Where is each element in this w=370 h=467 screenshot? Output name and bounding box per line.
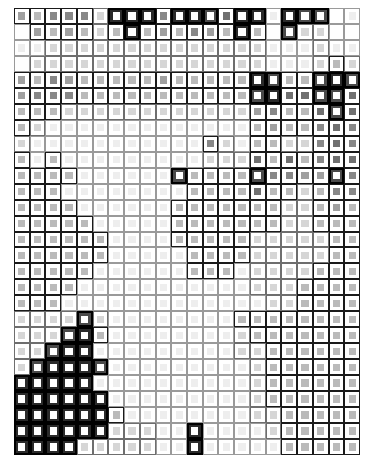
heatmap-cell [30, 56, 46, 72]
cell-swatch [349, 332, 356, 339]
heatmap-cell [234, 375, 250, 391]
cell-swatch [317, 60, 324, 67]
heatmap-cell [124, 327, 140, 343]
cell-swatch [18, 300, 25, 307]
cell-swatch [223, 76, 230, 83]
cell-plate [16, 26, 28, 38]
cell-swatch [50, 316, 57, 323]
cell-plate [268, 26, 280, 38]
cell-swatch [81, 300, 88, 307]
heatmap-cell [313, 263, 329, 279]
cell-swatch [144, 188, 151, 195]
heatmap-cell [156, 311, 172, 327]
heatmap-cell [297, 104, 313, 120]
cell-swatch [34, 188, 41, 195]
heatmap-cell [187, 104, 203, 120]
cell-swatch [144, 28, 151, 35]
cell-swatch [160, 12, 167, 19]
cell-swatch [18, 124, 25, 131]
heatmap-cell [297, 72, 313, 88]
cell-swatch [81, 379, 88, 386]
heatmap-cell [61, 40, 77, 56]
cell-swatch [223, 108, 230, 115]
cell-swatch [65, 44, 72, 51]
cell-swatch [191, 76, 198, 83]
heatmap-cell [250, 295, 266, 311]
cell-swatch [333, 108, 340, 115]
cell-swatch [254, 316, 261, 323]
cell-swatch [160, 204, 167, 211]
cell-swatch [286, 300, 293, 307]
heatmap-cell [61, 8, 77, 24]
heatmap-cell [140, 327, 156, 343]
heatmap-cell [14, 152, 30, 168]
cell-swatch [223, 44, 230, 51]
heatmap-cell [266, 391, 282, 407]
cell-swatch [254, 284, 261, 291]
heatmap-cell [187, 184, 203, 200]
heatmap-cell [77, 279, 93, 295]
cell-swatch [207, 204, 214, 211]
cell-swatch [144, 395, 151, 402]
cell-swatch [128, 108, 135, 115]
cell-swatch [238, 220, 245, 227]
heatmap-cell [203, 279, 219, 295]
heatmap-cell [187, 375, 203, 391]
heatmap-cell [187, 40, 203, 56]
heatmap-cell [61, 216, 77, 232]
cell-swatch [191, 220, 198, 227]
heatmap-cell [108, 72, 124, 88]
cell-swatch [333, 172, 340, 179]
cell-swatch [34, 427, 41, 434]
heatmap-cell [14, 327, 30, 343]
cell-swatch [144, 316, 151, 323]
cell-swatch [18, 108, 25, 115]
heatmap-cell [329, 184, 345, 200]
cell-swatch [333, 316, 340, 323]
heatmap-cell [297, 327, 313, 343]
cell-swatch [160, 220, 167, 227]
heatmap-cell [297, 88, 313, 104]
heatmap-cell [203, 216, 219, 232]
cell-swatch [238, 348, 245, 355]
cell-swatch [191, 108, 198, 115]
heatmap-cell [140, 263, 156, 279]
cell-swatch [18, 188, 25, 195]
heatmap-cell [218, 327, 234, 343]
cell-swatch [301, 395, 308, 402]
cell-swatch [301, 268, 308, 275]
heatmap-cell [234, 8, 250, 24]
heatmap-cell [329, 279, 345, 295]
heatmap-cell [218, 136, 234, 152]
cell-swatch [254, 300, 261, 307]
cell-swatch [270, 236, 277, 243]
cell-swatch [18, 44, 25, 51]
cell-swatch [128, 300, 135, 307]
cell-swatch [254, 252, 261, 259]
heatmap-cell [344, 391, 360, 407]
heatmap-cell [329, 200, 345, 216]
heatmap-cell [93, 120, 109, 136]
heatmap-cell [344, 311, 360, 327]
heatmap-cell [93, 184, 109, 200]
heatmap-cell [250, 232, 266, 248]
heatmap-cell [250, 88, 266, 104]
heatmap-cell [218, 279, 234, 295]
cell-swatch [176, 172, 183, 179]
heatmap-cell [61, 247, 77, 263]
heatmap-cell [124, 279, 140, 295]
cell-swatch [81, 140, 88, 147]
heatmap-cell [266, 232, 282, 248]
heatmap-cell [281, 168, 297, 184]
heatmap-cell [45, 72, 61, 88]
cell-swatch [254, 379, 261, 386]
cell-swatch [97, 411, 104, 418]
cell-swatch [207, 220, 214, 227]
heatmap-cell [297, 184, 313, 200]
cell-swatch [176, 348, 183, 355]
cell-swatch [191, 379, 198, 386]
heatmap-cell [344, 439, 360, 455]
cell-swatch [144, 76, 151, 83]
heatmap-cell [77, 375, 93, 391]
heatmap-cell [187, 279, 203, 295]
